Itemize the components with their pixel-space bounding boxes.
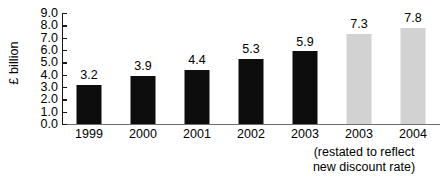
y-tick-label-wrap: 6.0 (26, 50, 58, 51)
footnote-line: (restated to reflect (286, 145, 442, 160)
y-tick-label-wrap: 2.0 (26, 99, 58, 100)
x-tick-label: 2001 (183, 128, 211, 141)
y-tick-label: 8.0 (30, 19, 58, 32)
y-tick-label-wrap: 8.0 (26, 25, 58, 26)
y-axis-title: £ billion (7, 27, 21, 99)
bar-value-label: 7.8 (404, 12, 421, 25)
y-tick-label: 0.0 (30, 118, 58, 131)
y-tick-label: 3.0 (30, 81, 58, 94)
chart-footnote: (restated to reflectnew discount rate) (286, 145, 442, 175)
x-tick-label: 2000 (129, 128, 157, 141)
bar-value-label: 3.2 (80, 69, 97, 82)
x-tick-label: 2004 (399, 128, 427, 141)
bar-slot: 3.2 (62, 13, 116, 124)
bar-value-label: 5.3 (242, 43, 259, 56)
bar-value-label: 7.3 (350, 18, 367, 31)
y-tick-label: 1.0 (30, 106, 58, 119)
bar-slot: 5.9 (278, 13, 332, 124)
bar[interactable] (239, 59, 264, 124)
y-tick-label: 5.0 (30, 56, 58, 69)
bar-slot: 3.9 (116, 13, 170, 124)
y-tick-label: 2.0 (30, 93, 58, 106)
y-tick-label-wrap: 3.0 (26, 87, 58, 88)
bar[interactable] (347, 34, 372, 124)
bar-value-label: 3.9 (134, 60, 151, 73)
y-tick-label: 6.0 (30, 44, 58, 57)
y-tick-label: 4.0 (30, 69, 58, 82)
y-tick-label-wrap: 9.0 (26, 13, 58, 14)
x-tick-label: 2003 (291, 128, 319, 141)
bar-slot: 7.3 (332, 13, 386, 124)
bar-chart: £ billion 0.01.02.03.04.05.06.07.08.09.0… (0, 0, 446, 179)
y-tick-label-wrap: 7.0 (26, 38, 58, 39)
bar-slot: 5.3 (224, 13, 278, 124)
bar[interactable] (185, 70, 210, 124)
y-tick-label-wrap: 5.0 (26, 62, 58, 63)
bar-value-label: 5.9 (296, 36, 313, 49)
y-tick-label: 7.0 (30, 32, 58, 45)
bar[interactable] (293, 51, 318, 124)
y-tick-label: 9.0 (30, 7, 58, 20)
x-tick-label: 2003 (345, 128, 373, 141)
bar-slot: 4.4 (170, 13, 224, 124)
y-tick-label-wrap: 1.0 (26, 112, 58, 113)
bar[interactable] (77, 85, 102, 124)
bar[interactable] (401, 28, 426, 124)
bar-value-label: 4.4 (188, 54, 205, 67)
bar[interactable] (131, 76, 156, 124)
bar-slot: 7.8 (386, 13, 440, 124)
y-tick-label-wrap: 4.0 (26, 75, 58, 76)
plot-area: 3.23.94.45.35.97.37.8 (62, 13, 440, 124)
x-tick-label: 1999 (75, 128, 103, 141)
y-tick-mark (62, 124, 67, 125)
x-tick-label: 2002 (237, 128, 265, 141)
footnote-line: new discount rate) (286, 160, 442, 175)
y-tick-label-wrap: 0.0 (26, 124, 58, 125)
